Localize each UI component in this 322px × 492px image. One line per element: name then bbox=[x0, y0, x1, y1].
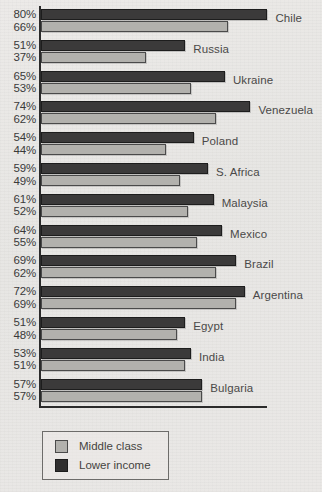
bar-row: 65%53%Ukraine bbox=[0, 69, 322, 99]
bar-row: 74%62%Venezuela bbox=[0, 99, 322, 129]
bar-row: 69%62%Brazil bbox=[0, 253, 322, 283]
value-label-lower-income: 72% bbox=[0, 285, 36, 298]
bar-lower-income bbox=[41, 9, 267, 20]
row-value-labels: 65%53% bbox=[0, 69, 36, 95]
value-label-middle-class: 53% bbox=[0, 82, 36, 95]
value-label-lower-income: 61% bbox=[0, 193, 36, 206]
bar-chart-plot-area: 80%66%Chile51%37%Russia65%53%Ukraine74%6… bbox=[0, 0, 322, 418]
row-value-labels: 69%62% bbox=[0, 253, 36, 279]
legend-swatch-middle-class bbox=[55, 440, 68, 453]
row-value-labels: 51%37% bbox=[0, 38, 36, 64]
value-label-middle-class: 37% bbox=[0, 51, 36, 64]
value-label-middle-class: 62% bbox=[0, 267, 36, 280]
bar-lower-income bbox=[41, 132, 194, 143]
row-value-labels: 64%55% bbox=[0, 223, 36, 249]
bar-row: 51%48%Egypt bbox=[0, 315, 322, 345]
bar-lower-income bbox=[41, 163, 208, 174]
row-value-labels: 57%57% bbox=[0, 377, 36, 403]
value-label-middle-class: 69% bbox=[0, 298, 36, 311]
row-value-labels: 51%48% bbox=[0, 315, 36, 341]
value-label-lower-income: 57% bbox=[0, 378, 36, 391]
value-label-lower-income: 59% bbox=[0, 162, 36, 175]
bar-row: 72%69%Argentina bbox=[0, 284, 322, 314]
category-label: Poland bbox=[202, 135, 238, 148]
row-value-labels: 54%44% bbox=[0, 130, 36, 156]
value-label-middle-class: 48% bbox=[0, 329, 36, 342]
value-label-lower-income: 74% bbox=[0, 100, 36, 113]
legend-swatch-lower-income bbox=[55, 459, 68, 472]
chart-legend: Middle class Lower income bbox=[42, 431, 169, 480]
bar-lower-income bbox=[41, 194, 214, 205]
bar-middle-class bbox=[41, 237, 197, 248]
bar-middle-class bbox=[41, 83, 191, 94]
bar-middle-class bbox=[41, 21, 228, 32]
category-label: Argentina bbox=[253, 289, 303, 302]
value-label-lower-income: 69% bbox=[0, 254, 36, 267]
category-label: Egypt bbox=[193, 320, 223, 333]
bar-lower-income bbox=[41, 225, 222, 236]
category-label: Mexico bbox=[230, 228, 267, 241]
bar-row: 61%52%Malaysia bbox=[0, 192, 322, 222]
value-label-middle-class: 55% bbox=[0, 236, 36, 249]
bar-middle-class bbox=[41, 144, 166, 155]
bar-lower-income bbox=[41, 348, 191, 359]
bar-middle-class bbox=[41, 329, 177, 340]
category-label: S. Africa bbox=[216, 166, 260, 179]
bar-lower-income bbox=[41, 101, 250, 112]
value-label-middle-class: 52% bbox=[0, 205, 36, 218]
value-label-middle-class: 57% bbox=[0, 390, 36, 403]
row-value-labels: 74%62% bbox=[0, 99, 36, 125]
bar-lower-income bbox=[41, 255, 236, 266]
row-value-labels: 61%52% bbox=[0, 192, 36, 218]
bar-middle-class bbox=[41, 175, 180, 186]
legend-label-lower-income: Lower income bbox=[79, 459, 151, 472]
value-label-lower-income: 54% bbox=[0, 131, 36, 144]
bar-row: 59%49%S. Africa bbox=[0, 161, 322, 191]
bar-row: 54%44%Poland bbox=[0, 130, 322, 160]
bar-middle-class bbox=[41, 267, 216, 278]
value-label-lower-income: 65% bbox=[0, 70, 36, 83]
category-label: Ukraine bbox=[233, 74, 273, 87]
bar-middle-class bbox=[41, 113, 216, 124]
bar-row: 57%57%Bulgaria bbox=[0, 377, 322, 407]
value-label-lower-income: 53% bbox=[0, 347, 36, 360]
bar-middle-class bbox=[41, 298, 236, 309]
bar-middle-class bbox=[41, 206, 188, 217]
category-label: Chile bbox=[275, 12, 302, 25]
value-label-middle-class: 51% bbox=[0, 359, 36, 372]
bar-row: 51%37%Russia bbox=[0, 38, 322, 68]
category-label: Venezuela bbox=[258, 104, 313, 117]
category-label: Bulgaria bbox=[210, 382, 253, 395]
bar-lower-income bbox=[41, 40, 185, 51]
bar-row: 53%51%India bbox=[0, 346, 322, 376]
value-label-middle-class: 49% bbox=[0, 175, 36, 188]
chart-page: 80%66%Chile51%37%Russia65%53%Ukraine74%6… bbox=[0, 0, 322, 492]
bar-lower-income bbox=[41, 317, 185, 328]
bar-lower-income bbox=[41, 286, 245, 297]
bar-row: 64%55%Mexico bbox=[0, 223, 322, 253]
bar-lower-income bbox=[41, 379, 202, 390]
category-label: Malaysia bbox=[222, 197, 268, 210]
category-label: Brazil bbox=[244, 258, 273, 271]
row-value-labels: 59%49% bbox=[0, 161, 36, 187]
category-label: India bbox=[199, 351, 224, 364]
value-label-middle-class: 66% bbox=[0, 21, 36, 34]
bar-row: 80%66%Chile bbox=[0, 7, 322, 37]
bar-middle-class bbox=[41, 360, 185, 371]
category-label: Russia bbox=[193, 43, 229, 56]
value-label-middle-class: 62% bbox=[0, 113, 36, 126]
row-value-labels: 72%69% bbox=[0, 284, 36, 310]
legend-label-middle-class: Middle class bbox=[79, 440, 142, 453]
bar-middle-class bbox=[41, 52, 146, 63]
row-value-labels: 80%66% bbox=[0, 7, 36, 33]
value-label-lower-income: 51% bbox=[0, 316, 36, 329]
value-label-middle-class: 44% bbox=[0, 144, 36, 157]
bar-lower-income bbox=[41, 71, 225, 82]
row-value-labels: 53%51% bbox=[0, 346, 36, 372]
value-label-lower-income: 80% bbox=[0, 8, 36, 21]
value-label-lower-income: 64% bbox=[0, 224, 36, 237]
bar-middle-class bbox=[41, 391, 202, 402]
value-label-lower-income: 51% bbox=[0, 39, 36, 52]
